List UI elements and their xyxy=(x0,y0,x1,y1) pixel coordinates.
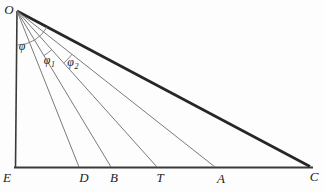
ray-OD xyxy=(17,11,79,167)
label-angle-phi2: φ xyxy=(67,55,74,69)
geometry-figure: O E D B T A C φ φ 1 φ 2 xyxy=(0,0,324,193)
ray-OB xyxy=(17,11,111,167)
side-OC-hypotenuse xyxy=(17,11,310,167)
label-angle-phi: φ xyxy=(19,39,26,53)
label-angle-phi1: φ xyxy=(44,53,51,67)
label-angle-phi1-subscript: 1 xyxy=(51,60,55,69)
ray-OT xyxy=(17,11,157,167)
label-point-C: C xyxy=(310,169,319,184)
label-point-T: T xyxy=(156,170,164,185)
label-point-E: E xyxy=(2,170,11,185)
label-point-D: D xyxy=(78,170,89,185)
triangle-diagram-svg: O E D B T A C φ φ 1 φ 2 xyxy=(0,0,324,193)
side-OE-vertical xyxy=(16,11,18,167)
label-point-A: A xyxy=(216,171,225,186)
label-point-O: O xyxy=(4,2,14,17)
label-angle-phi2-subscript: 2 xyxy=(75,62,79,71)
label-point-B: B xyxy=(110,170,118,185)
ray-OA xyxy=(17,11,215,167)
